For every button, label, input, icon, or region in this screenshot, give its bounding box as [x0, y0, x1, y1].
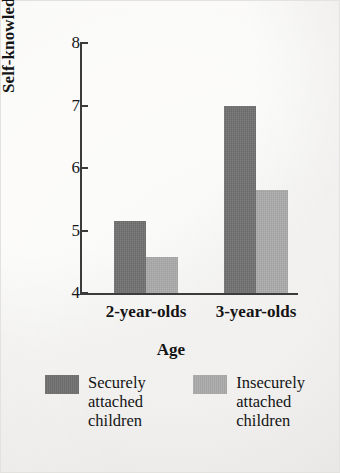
y-tick-label: 8 [58, 34, 80, 51]
x-axis-line [80, 293, 298, 295]
y-tick-label: 6 [58, 159, 80, 176]
y-tick-mark [80, 105, 88, 107]
y-tick-label: 5 [58, 222, 80, 239]
y-axis-ticks: 45678 [52, 43, 80, 295]
x-axis-category-labels: 2-year-olds3-year-olds [80, 302, 298, 326]
legend-label: Securely attached children [88, 373, 146, 430]
bar-chart-figure: Self-knowledge score 45678 2-year-olds3-… [0, 0, 340, 473]
y-tick-mark [80, 292, 88, 294]
legend-item-insecurely-attached[interactable]: Insecurely attached children [193, 373, 305, 430]
chart-legend: Securely attached childrenInsecurely att… [45, 373, 305, 430]
y-tick-mark [80, 42, 88, 44]
legend-label: Insecurely attached children [236, 373, 305, 430]
y-tick-mark [80, 167, 88, 169]
x-category-label-3-year-olds: 3-year-olds [196, 302, 316, 322]
bar-securely-attached-2-year-olds [114, 221, 146, 293]
bar-securely-attached-3-year-olds [224, 106, 256, 294]
legend-swatch-icon [193, 375, 227, 394]
y-axis-line [80, 43, 82, 295]
legend-swatch-icon [45, 375, 79, 394]
y-axis-title: Self-knowledge score [0, 0, 19, 93]
y-tick-mark [80, 230, 88, 232]
bar-insecurely-attached-3-year-olds [256, 190, 288, 293]
y-tick-label: 4 [58, 284, 80, 301]
plot-area: 45678 [80, 43, 298, 295]
bar-insecurely-attached-2-year-olds [146, 257, 178, 293]
legend-item-securely-attached[interactable]: Securely attached children [45, 373, 146, 430]
x-axis-title: Age [1, 340, 340, 360]
x-category-label-2-year-olds: 2-year-olds [86, 302, 206, 322]
y-tick-label: 7 [58, 97, 80, 114]
